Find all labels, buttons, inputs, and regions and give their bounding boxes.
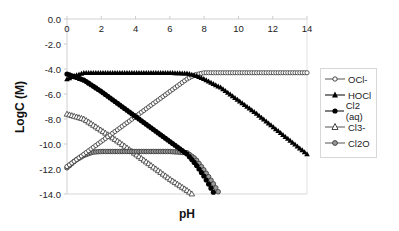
- legend-label: Cl3-: [348, 122, 365, 133]
- x-tick-label: 12: [267, 23, 278, 34]
- legend-item-cl3: Cl3-: [324, 120, 365, 134]
- y-tick-label: -10.0: [39, 139, 61, 150]
- legend-label: Cl2 (aq): [346, 100, 376, 122]
- series-cl2o: [65, 149, 221, 194]
- open-triangle-marker-icon: [324, 122, 346, 132]
- y-tick-label: -6.0: [45, 89, 61, 100]
- x-tick-label: 2: [99, 23, 104, 34]
- y-tick-label: -4.0: [45, 64, 61, 75]
- plot-frame: [67, 19, 307, 194]
- gray-circle-marker-icon: [324, 138, 346, 148]
- legend-item-cl2o: Cl2O: [324, 136, 370, 150]
- legend-item-cl2aq: Cl2 (aq): [324, 104, 376, 118]
- filled-triangle-marker-icon: [324, 90, 346, 100]
- legend-label: OCl-: [348, 74, 368, 85]
- x-tick-label: 4: [133, 23, 138, 34]
- x-tick-label: 6: [167, 23, 172, 34]
- plot-series: [64, 70, 310, 196]
- y-tick-label: 0.0: [48, 14, 61, 25]
- legend-item-ocl: OCl-: [324, 72, 368, 86]
- legend-label: Cl2O: [348, 138, 370, 149]
- x-tick-label: 14: [302, 23, 313, 34]
- chart-legend: OCl- HOCl Cl2 (aq) Cl3- Cl2O: [320, 68, 377, 158]
- y-tick-label: -12.0: [39, 164, 61, 175]
- legend-label: HOCl: [348, 90, 371, 101]
- y-tick-label: -14.0: [39, 189, 61, 200]
- open-circle-marker-icon: [324, 74, 346, 84]
- x-tick-label: 8: [201, 23, 206, 34]
- x-tick-label: 0: [64, 23, 69, 34]
- y-axis-title: LogC (M): [13, 81, 27, 133]
- x-tick-label: 10: [233, 23, 244, 34]
- y-axis-ticks: 0.0-2.0-4.0-6.0-8.0-10.0-12.0-14.0: [39, 14, 67, 200]
- x-axis-title: pH: [179, 207, 195, 221]
- filled-circle-marker-icon: [324, 106, 344, 116]
- series-cl2-aq-: [64, 71, 216, 194]
- y-tick-label: -2.0: [45, 39, 61, 50]
- y-tick-label: -8.0: [45, 114, 61, 125]
